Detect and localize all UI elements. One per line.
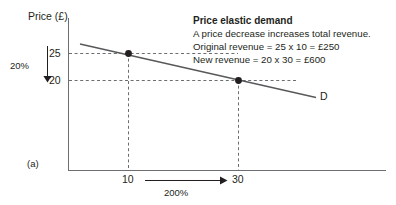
note-line-summary: A price decrease increases total revenue… xyxy=(193,27,393,40)
x-tick-label-30: 30 xyxy=(232,174,244,185)
y-axis-title: Price (£) xyxy=(28,11,68,22)
note-line-original-revenue: Original revenue = 25 x 10 = £250 xyxy=(193,40,393,53)
y-tick-label-25: 25 xyxy=(49,48,61,59)
data-point-original xyxy=(125,50,132,57)
price-change-label: 20% xyxy=(10,61,29,71)
x-tick-label-10: 10 xyxy=(122,174,134,185)
panel-label: (a) xyxy=(27,159,39,169)
note-line-new-revenue: New revenue = 20 x 30 = £600 xyxy=(193,53,393,66)
quantity-change-label: 200% xyxy=(164,188,188,198)
demand-curve-label: D xyxy=(320,91,328,102)
annotation-note: Price elastic demand A price decrease in… xyxy=(193,14,393,66)
data-point-new xyxy=(235,77,242,84)
y-tick-label-20: 20 xyxy=(49,75,61,86)
note-title: Price elastic demand xyxy=(193,14,393,27)
